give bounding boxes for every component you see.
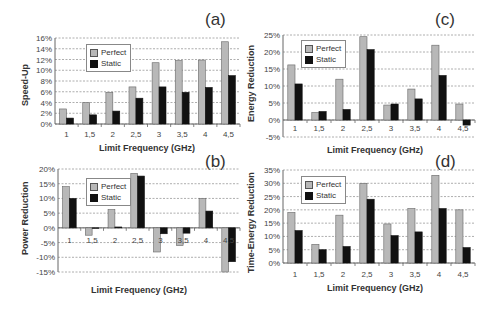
bar-static xyxy=(415,99,422,120)
x-tick-label: 2,5 xyxy=(130,130,142,139)
bar-perfect xyxy=(384,224,391,263)
bar-perfect xyxy=(288,213,295,263)
x-tick-label: 2,5 xyxy=(361,270,373,279)
legend-swatch-static xyxy=(90,60,98,68)
y-tick-label: 5% xyxy=(268,246,280,255)
chart-panel-b: (b) -15%-10%-5%0%5%10%15%20%11,522,533,5… xyxy=(0,155,241,310)
bar-static xyxy=(439,75,446,120)
bar-perfect xyxy=(360,183,367,263)
bar-static xyxy=(391,236,398,263)
y-tick-label: 6% xyxy=(40,88,52,97)
legend-label-perfect: Perfect xyxy=(101,181,126,192)
legend-label-static: Static xyxy=(101,192,121,203)
bar-perfect xyxy=(222,42,229,124)
legend-label-static: Static xyxy=(101,58,121,69)
bar-static xyxy=(319,112,326,121)
legend-swatch-static xyxy=(305,192,313,200)
bar-static xyxy=(228,76,235,124)
y-axis-label-c: Energy Reduction xyxy=(246,45,256,122)
y-tick-label: -5% xyxy=(41,239,55,248)
bar-static xyxy=(160,228,167,234)
legend-swatch-perfect xyxy=(90,49,98,57)
bar-static xyxy=(90,115,97,124)
y-tick-label: 10% xyxy=(264,232,280,241)
legend-label-static: Static xyxy=(316,54,336,65)
bar-perfect xyxy=(199,198,206,227)
bar-perfect xyxy=(384,105,391,120)
chart-panel-d: (d) 0%5%10%15%20%25%30%35%11,522,533,544… xyxy=(241,155,482,310)
bar-perfect xyxy=(360,37,367,120)
x-axis-label-b: Limit Frequency (GHz) xyxy=(91,285,187,295)
bar-perfect xyxy=(456,104,463,120)
x-tick-label: 1 xyxy=(67,236,72,245)
y-tick-label: -15% xyxy=(36,268,55,277)
bar-perfect xyxy=(222,228,229,272)
x-tick-label: 2 xyxy=(111,130,116,139)
bar-perfect xyxy=(312,113,319,120)
bar-static xyxy=(343,109,350,120)
legend-b: Perfect Static xyxy=(86,178,131,206)
x-tick-label: 1,5 xyxy=(313,270,325,279)
bar-static xyxy=(67,118,74,124)
legend-swatch-static xyxy=(305,56,313,64)
y-tick-label: 0% xyxy=(43,224,55,233)
x-tick-label: 4 xyxy=(203,130,208,139)
y-tick-label: 10% xyxy=(36,66,52,75)
bar-perfect xyxy=(336,215,343,263)
legend-label-static: Static xyxy=(316,190,336,201)
x-tick-label: 1 xyxy=(293,270,298,279)
bar-static xyxy=(113,111,120,124)
y-tick-label: 30% xyxy=(264,179,280,188)
x-axis-label-a: Limit Frequency (GHz) xyxy=(99,143,195,153)
y-tick-label: 12% xyxy=(36,56,52,65)
bar-static xyxy=(391,104,398,120)
x-tick-label: 2 xyxy=(341,270,346,279)
y-tick-label: 15% xyxy=(39,180,55,189)
x-tick-label: 4,5 xyxy=(457,124,469,133)
chart-plot-a: 0%2%4%6%8%10%12%14%16%11,522,533,544,5 xyxy=(0,0,241,155)
y-tick-label: 5% xyxy=(268,99,280,108)
y-tick-label: 2% xyxy=(40,109,52,118)
x-tick-label: 4 xyxy=(437,270,442,279)
bar-static xyxy=(343,247,350,263)
bar-static xyxy=(205,87,212,124)
y-axis-label-a: Speed-Up xyxy=(20,64,30,106)
bar-perfect xyxy=(85,228,92,235)
y-tick-label: -5% xyxy=(266,133,280,142)
bar-perfect xyxy=(432,45,439,120)
y-axis-label-b: Power Reduction xyxy=(20,181,30,255)
y-tick-label: 0% xyxy=(40,120,52,129)
x-tick-label: 2,5 xyxy=(132,236,144,245)
legend-label-perfect: Perfect xyxy=(101,47,126,58)
bar-static xyxy=(463,248,470,263)
legend-swatch-perfect xyxy=(305,45,313,53)
x-tick-label: 3,5 xyxy=(409,270,421,279)
x-tick-label: 4 xyxy=(437,124,442,133)
x-tick-label: 4,5 xyxy=(457,270,469,279)
x-tick-label: 3,5 xyxy=(178,236,190,245)
x-tick-label: 2 xyxy=(113,236,118,245)
bar-static xyxy=(136,98,143,124)
legend-d: Perfect Static xyxy=(301,176,346,204)
y-tick-label: 0% xyxy=(268,116,280,125)
y-axis-label-d: Time-Energy Reduction xyxy=(246,172,256,273)
bar-static xyxy=(367,50,374,120)
legend-swatch-static xyxy=(90,194,98,202)
legend-a: Perfect Static xyxy=(86,44,131,72)
y-tick-label: 20% xyxy=(264,48,280,57)
y-tick-label: 14% xyxy=(36,45,52,54)
legend-c: Perfect Static xyxy=(301,40,346,68)
y-tick-label: 15% xyxy=(264,65,280,74)
x-tick-label: 3 xyxy=(389,124,394,133)
y-tick-label: 35% xyxy=(264,166,280,175)
y-tick-label: 10% xyxy=(264,82,280,91)
x-tick-label: 3 xyxy=(389,270,394,279)
bar-static xyxy=(295,84,302,120)
bar-perfect xyxy=(106,92,113,124)
bar-perfect xyxy=(108,210,115,228)
x-tick-label: 3,5 xyxy=(409,124,421,133)
x-axis-label-d: Limit Frequency (GHz) xyxy=(327,283,423,293)
bar-static xyxy=(415,232,422,263)
bar-perfect xyxy=(288,65,295,120)
y-tick-label: 5% xyxy=(43,209,55,218)
